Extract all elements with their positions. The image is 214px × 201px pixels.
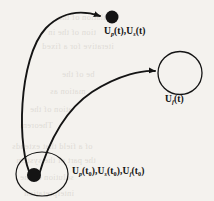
label-top-arg-1: (t): [114, 26, 124, 36]
trajectory-arrow-lower: [38, 71, 155, 178]
label-top-sub-2: s: [133, 30, 135, 37]
label-top-term-2: Us(t): [126, 26, 145, 36]
label-right-term-1: Uf(t): [165, 94, 184, 104]
label-bottom: Up(t0),Us(t0),Uf(t0): [72, 167, 144, 177]
label-bottom-arg-1: (t0): [82, 166, 95, 176]
label-right-sub-1: f: [172, 98, 174, 105]
label-bottom-sub-1: p: [79, 170, 82, 177]
label-bottom-sub-2: s: [105, 170, 107, 177]
label-bottom-t0-2: 0: [113, 170, 116, 177]
label-top: Up(t),Us(t): [104, 27, 146, 37]
label-bottom-term-1: Up(t0): [72, 166, 95, 176]
label-right: Uf(t): [165, 95, 184, 105]
final-state-circle: [158, 52, 202, 95]
label-top-arg-2: (t): [136, 26, 146, 36]
label-bottom-t0-3: 0: [138, 170, 141, 177]
initial-state-ellipse: [16, 152, 68, 196]
figure-container: ulation of thetion of the initerative fo…: [0, 0, 214, 201]
label-right-arg-1: (t): [174, 94, 184, 104]
label-top-term-1: Up(t): [104, 26, 124, 36]
label-bottom-arg-3: (t0): [131, 166, 144, 176]
label-bottom-arg-2: (t0): [107, 166, 120, 176]
label-top-sub-1: p: [111, 30, 114, 37]
initial-state-dot: [27, 168, 41, 182]
final-state-dot: [106, 11, 119, 24]
label-bottom-term-2: Us(t0): [98, 166, 120, 176]
label-bottom-t0-1: 0: [89, 170, 92, 177]
label-bottom-term-3: Uf(t0): [122, 166, 144, 176]
